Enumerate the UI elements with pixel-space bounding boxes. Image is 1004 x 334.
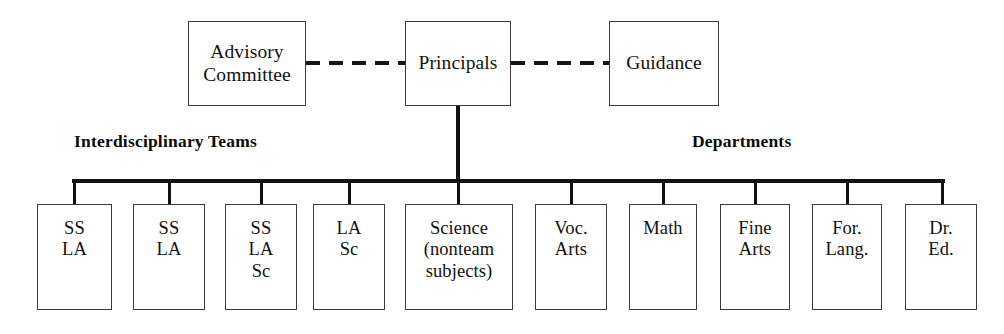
node-advisory-committee-label: Advisory Committee	[201, 41, 293, 86]
node-unit-10[interactable]: Dr. Ed.	[905, 204, 977, 310]
node-unit-1[interactable]: SS LA	[37, 204, 112, 310]
dashed-link-advisory-principals	[306, 61, 405, 65]
node-guidance[interactable]: Guidance	[609, 21, 719, 106]
stub-to-unit-10	[941, 179, 944, 205]
node-advisory-committee[interactable]: Advisory Committee	[188, 21, 306, 106]
node-principals[interactable]: Principals	[405, 21, 511, 106]
node-unit-6-label: Voc. Arts	[552, 218, 589, 261]
node-unit-3-label: SS LA Sc	[247, 218, 276, 282]
dashed-link-principals-guidance	[511, 61, 609, 65]
node-unit-2[interactable]: SS LA	[133, 204, 205, 310]
stub-to-unit-1	[73, 179, 76, 205]
node-unit-3[interactable]: SS LA Sc	[225, 204, 297, 310]
node-unit-10-label: Dr. Ed.	[926, 218, 955, 261]
node-unit-9[interactable]: For. Lang.	[812, 204, 882, 310]
stub-to-unit-7	[662, 179, 665, 205]
node-guidance-label: Guidance	[624, 52, 704, 75]
stub-to-unit-3	[260, 179, 263, 205]
node-unit-9-label: For. Lang.	[823, 218, 870, 261]
node-unit-4-label: LA Sc	[335, 218, 364, 261]
node-unit-4[interactable]: LA Sc	[313, 204, 385, 310]
node-principals-label: Principals	[417, 52, 500, 75]
node-unit-7-label: Math	[641, 218, 684, 239]
horizontal-bus-bar	[72, 179, 945, 183]
org-chart-canvas: Advisory Committee Principals Guidance I…	[0, 0, 1004, 334]
stub-to-unit-8	[754, 179, 757, 205]
stub-to-unit-6	[570, 179, 573, 205]
stub-to-unit-5	[457, 179, 460, 205]
stub-to-unit-4	[348, 179, 351, 205]
node-unit-8-label: Fine Arts	[736, 218, 773, 261]
node-unit-7[interactable]: Math	[629, 204, 697, 310]
node-unit-2-label: SS LA	[155, 218, 184, 261]
node-unit-8[interactable]: Fine Arts	[720, 204, 790, 310]
node-unit-1-label: SS LA	[60, 218, 89, 261]
node-unit-5-label: Science (nonteam subjects)	[422, 218, 497, 282]
caption-departments: Departments	[692, 131, 791, 152]
node-unit-5[interactable]: Science (nonteam subjects)	[405, 204, 513, 310]
caption-interdisciplinary-teams: Interdisciplinary Teams	[74, 131, 257, 152]
node-unit-6[interactable]: Voc. Arts	[535, 204, 607, 310]
stub-to-unit-2	[168, 179, 171, 205]
stub-to-unit-9	[846, 179, 849, 205]
trunk-principals-to-bus	[456, 106, 460, 182]
